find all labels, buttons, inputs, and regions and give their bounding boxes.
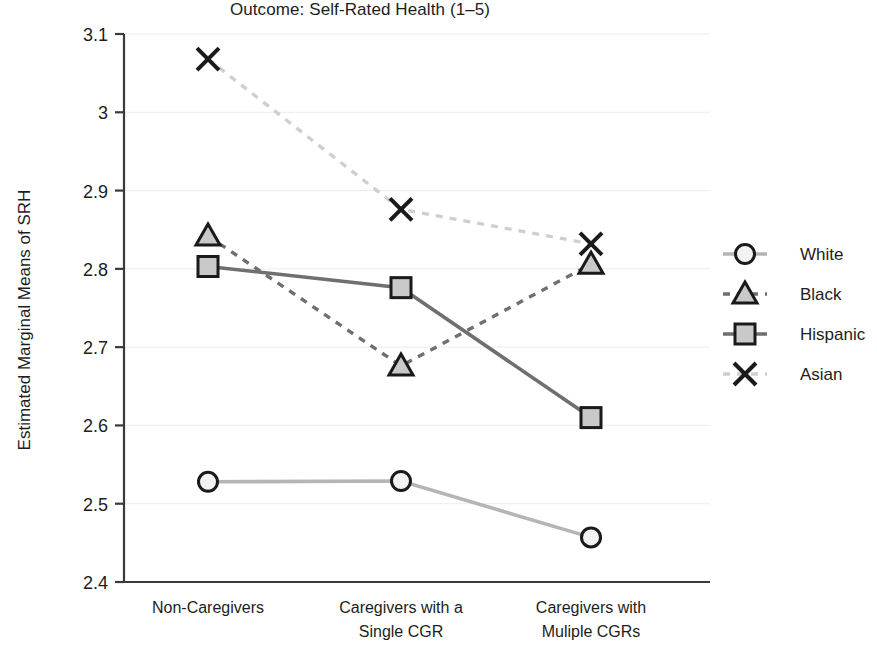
data-point-hispanic-1 [198, 257, 218, 277]
x-category-label-2: Caregivers with a [339, 599, 463, 616]
legend-label-white: White [800, 245, 843, 264]
x-category-label-3: Muliple CGRs [542, 623, 641, 640]
x-axis-category-labels: Non-CaregiversCaregivers with aSingle CG… [152, 599, 646, 640]
x-category-label-2: Single CGR [359, 623, 443, 640]
chart-figure: Outcome: Self-Rated Health (1–5) Estimat… [0, 0, 877, 654]
line-chart-plot: Estimated Marginal Means of SRH 2.42.52.… [0, 0, 877, 654]
legend-label-black: Black [800, 285, 842, 304]
data-point-hispanic-3 [581, 408, 601, 428]
y-tick-label: 2.6 [83, 416, 108, 436]
y-tick-label: 3 [98, 103, 108, 123]
legend-item-hispanic[interactable]: Hispanic [723, 324, 866, 344]
data-point-black-1 [196, 224, 220, 245]
y-axis-tick-labels: 2.42.52.62.72.82.933.1 [83, 25, 108, 593]
legend-marker-circle-icon [736, 245, 755, 264]
series-line-asian [208, 59, 591, 244]
y-axis-title: Estimated Marginal Means of SRH [15, 190, 34, 451]
data-point-white-1 [199, 472, 218, 491]
data-point-white-2 [392, 472, 411, 491]
y-tick-label: 2.9 [83, 182, 108, 202]
y-tick-label: 2.4 [83, 573, 108, 593]
y-tick-label: 2.7 [83, 338, 108, 358]
data-point-hispanic-2 [391, 278, 411, 298]
legend-item-white[interactable]: White [723, 245, 843, 265]
legend-marker-square-icon [735, 324, 755, 344]
legend-label-asian: Asian [800, 365, 843, 384]
legend-label-hispanic: Hispanic [800, 325, 866, 344]
series-line-black [208, 236, 591, 366]
series-markers [196, 48, 603, 547]
y-tick-label: 3.1 [83, 25, 108, 45]
data-point-black-2 [389, 354, 413, 375]
data-point-asian-1 [197, 48, 219, 70]
legend-item-black[interactable]: Black [723, 282, 842, 304]
gridlines [124, 34, 710, 582]
legend-item-asian[interactable]: Asian [723, 363, 843, 385]
x-category-label-3: Caregivers with [536, 599, 646, 616]
data-point-white-3 [582, 528, 601, 547]
chart-legend: WhiteBlackHispanicAsian [723, 245, 866, 386]
data-point-black-3 [579, 252, 603, 273]
y-tick-label: 2.8 [83, 260, 108, 280]
x-category-label-1: Non-Caregivers [152, 599, 264, 616]
y-axis-ticks [115, 34, 124, 582]
y-tick-label: 2.5 [83, 495, 108, 515]
